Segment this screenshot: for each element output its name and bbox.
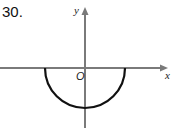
problem-number: 30. xyxy=(2,3,23,20)
diagram: 30. y x O xyxy=(0,0,171,129)
x-axis-label: x xyxy=(164,69,170,81)
origin-label: O xyxy=(76,70,85,82)
y-axis-label: y xyxy=(73,4,79,16)
y-axis-arrow-icon xyxy=(82,7,89,15)
